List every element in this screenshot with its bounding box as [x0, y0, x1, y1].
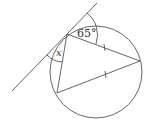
geometry-diagram: 65° x: [0, 0, 157, 123]
side-bottom-right: [57, 61, 140, 93]
angle-label-65: 65°: [77, 27, 97, 40]
angle-label-x: x: [56, 47, 62, 58]
tangent-line: [12, 3, 97, 91]
tick-mark-top: [104, 44, 105, 51]
tick-mark-bottom: [105, 71, 106, 78]
